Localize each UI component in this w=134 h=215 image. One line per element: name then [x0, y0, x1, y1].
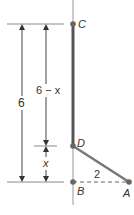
label-b: B: [77, 186, 84, 197]
dimension-6-label: 6: [18, 97, 25, 109]
label-a: A: [123, 188, 130, 199]
point-d: [70, 143, 76, 149]
dimension-x-label: x: [43, 158, 49, 169]
dimension-2-label: 2: [94, 169, 100, 180]
label-c: C: [78, 19, 86, 30]
label-d: D: [77, 138, 85, 149]
point-b: [70, 179, 76, 185]
point-c: [70, 21, 76, 27]
dimension-6-minus-x-label: 6 − x: [36, 85, 60, 96]
point-a: [126, 179, 132, 185]
segment-da: [73, 146, 129, 182]
diagram-canvas: C D B A 6 6 − x x 2: [0, 0, 134, 215]
